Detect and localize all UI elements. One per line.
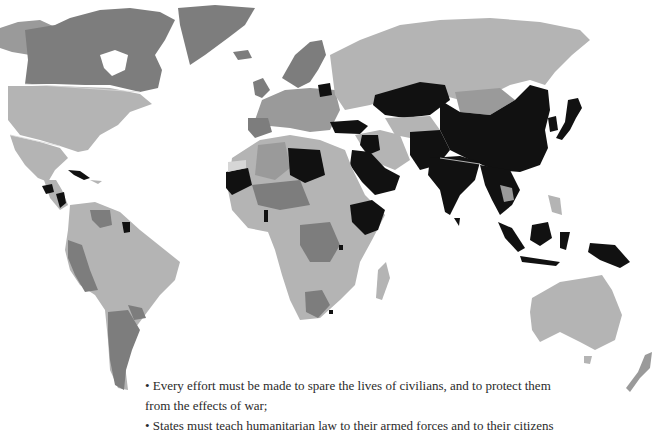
region-southeast-asia xyxy=(480,165,520,215)
region-scandinavia xyxy=(282,40,326,88)
caption-line-1: • Every effort must be made to spare the… xyxy=(145,376,655,396)
region-argentina xyxy=(108,310,140,390)
region-belarus xyxy=(318,83,332,97)
region-sulawesi xyxy=(560,232,570,250)
caption-line-2: from the effects of war; xyxy=(145,396,655,416)
region-ghana xyxy=(264,210,268,222)
caption: • Every effort must be made to spare the… xyxy=(145,376,655,434)
region-lesotho xyxy=(329,310,333,314)
caption-line-3: • States must teach humanitarian law to … xyxy=(145,416,655,434)
region-philippines xyxy=(548,195,562,215)
region-new-guinea xyxy=(588,243,630,268)
region-rwanda xyxy=(339,245,343,250)
region-canada xyxy=(25,8,175,92)
region-madagascar xyxy=(376,262,390,300)
region-sumatra xyxy=(498,222,525,252)
region-australia xyxy=(530,275,622,350)
region-cuba xyxy=(68,170,90,180)
region-korea xyxy=(548,116,558,132)
region-java xyxy=(520,256,560,266)
region-uk xyxy=(253,78,270,98)
region-india xyxy=(428,156,480,215)
region-iceland xyxy=(233,50,252,60)
region-sahel xyxy=(252,180,310,210)
region-iberia xyxy=(248,118,272,138)
region-turkey xyxy=(330,120,368,134)
region-sri-lanka xyxy=(454,218,460,226)
region-caribbean xyxy=(90,180,102,184)
region-tasmania xyxy=(584,356,592,364)
region-borneo xyxy=(530,222,552,246)
region-japan xyxy=(556,98,582,140)
